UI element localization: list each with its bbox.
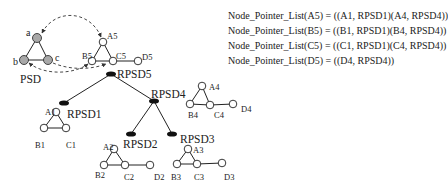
node-d4 [229, 100, 237, 108]
label-a2: A2 [103, 142, 113, 152]
label-a4: A4 [209, 82, 219, 92]
label-b4: B4 [188, 110, 198, 120]
label-rpsd2: RPSD2 [123, 138, 158, 150]
hnode-rpsd5 [106, 71, 116, 76]
psd-node-c [44, 56, 53, 65]
hnode-rpsd2 [126, 131, 136, 136]
label-c2: C2 [124, 172, 134, 182]
node-a4 [198, 82, 206, 90]
psd-node-a [33, 34, 42, 43]
node-b3 [173, 160, 181, 168]
label-b5: B5 [82, 51, 92, 61]
label-rpsd3: RPSD3 [180, 133, 215, 145]
label-a1: A1 [45, 107, 55, 117]
label-c1: C1 [66, 140, 76, 150]
subgraph-5 [88, 38, 142, 65]
pointer-list-d5: Node_Pointer_List(D5) = ((D4, RPSD4)) [228, 55, 394, 67]
node-c4 [206, 101, 214, 109]
pointer-list-c5: Node_Pointer_List(C5) = ((C1, RPSD1)(C4,… [228, 40, 446, 52]
hnode-rpsd3 [167, 131, 177, 136]
node-a3 [184, 145, 192, 153]
node-d5 [134, 57, 142, 65]
label-a5: A5 [107, 31, 117, 41]
hierarchy-edges [64, 74, 172, 134]
label-rpsd5: RPSD5 [117, 68, 152, 80]
node-c2 [121, 161, 129, 169]
pointer-list-a5: Node_Pointer_List(A5) = ((A1, RPSD1)(A4,… [228, 10, 448, 22]
mapping-arc-a-a5 [42, 15, 101, 37]
label-a3: A3 [193, 145, 203, 155]
label-d4: D4 [241, 104, 251, 114]
label-rpsd1: RPSD1 [67, 108, 102, 120]
label-c4: C4 [214, 110, 224, 120]
node-d2 [146, 161, 154, 169]
node-c3 [193, 160, 201, 168]
node-a5 [99, 38, 107, 46]
node-b2 [100, 161, 108, 169]
label-c5: C5 [116, 51, 126, 61]
label-d5: D5 [142, 52, 152, 62]
label-c3: C3 [194, 172, 204, 182]
psd-label-b: b [13, 57, 18, 67]
psd-label-a: a [26, 28, 30, 38]
label-rpsd4: RPSD4 [151, 88, 186, 100]
node-d3 [218, 159, 226, 167]
psd-graph [20, 34, 53, 65]
node-b1 [40, 124, 48, 132]
mapping-arc-c-c5 [53, 63, 106, 68]
label-b3: B3 [171, 172, 181, 182]
psd-title: PSD [20, 73, 41, 85]
label-b2: B2 [95, 170, 105, 180]
label-d2: D2 [154, 172, 164, 182]
pointer-list-b5: Node_Pointer_List(B5) = ((B1, RPSD1)(B4,… [228, 25, 446, 37]
hnode-rpsd1 [59, 100, 69, 105]
psd-label-c: c [55, 53, 59, 63]
psd-node-b [20, 56, 29, 65]
label-b1: B1 [35, 140, 45, 150]
label-d3: D3 [224, 172, 234, 182]
node-c1 [62, 124, 70, 132]
mapping-arc-b-b5 [29, 63, 88, 72]
node-b4 [186, 100, 194, 108]
